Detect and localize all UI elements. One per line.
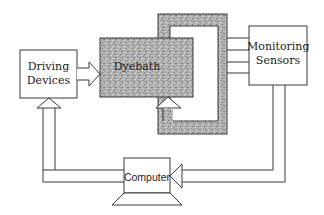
computer-keyboard-base [112, 193, 182, 205]
arrow-driving-to-dyebath [77, 62, 100, 86]
monitoring-sensors-label-line2: Sensors [247, 54, 309, 68]
monitoring-sensors-label: Monitoring Sensors [247, 40, 309, 68]
driving-devices-label-line1: Driving [20, 60, 77, 74]
driving-devices-label-line2: Devices [20, 74, 77, 88]
sensor-lines [227, 38, 249, 73]
monitoring-sensors-label-line1: Monitoring [247, 40, 309, 54]
computer-label: Computer [122, 170, 172, 184]
arrow-computer-to-driving [37, 98, 124, 182]
driving-devices-label: Driving Devices [20, 60, 77, 88]
dyebath-control-diagram: Driving Devices Dyebath Monitoring Senso… [0, 0, 324, 215]
dyebath-label: Dyebath [100, 60, 174, 74]
